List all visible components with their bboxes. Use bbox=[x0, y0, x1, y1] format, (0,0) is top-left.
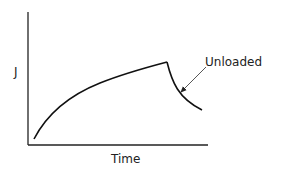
annotation-arrow bbox=[181, 67, 206, 92]
y-axis-label: J bbox=[14, 66, 18, 78]
diagram-canvas bbox=[0, 0, 281, 172]
loading-curve bbox=[34, 62, 167, 139]
unloading-curve bbox=[167, 62, 202, 110]
unloaded-annotation: Unloaded bbox=[205, 56, 262, 68]
x-axis-label: Time bbox=[111, 153, 140, 165]
